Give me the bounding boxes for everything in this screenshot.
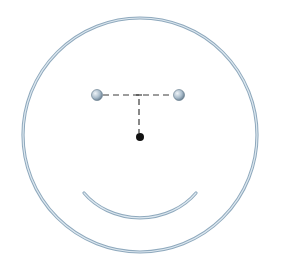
diagram-svg	[0, 0, 282, 272]
mouth	[84, 193, 196, 218]
right-eye-sphere-icon	[174, 90, 185, 101]
smiley-diagram	[0, 0, 282, 272]
mouth-arc-outer	[84, 193, 196, 218]
left-eye-sphere-icon	[92, 90, 103, 101]
center-dot	[136, 133, 144, 141]
